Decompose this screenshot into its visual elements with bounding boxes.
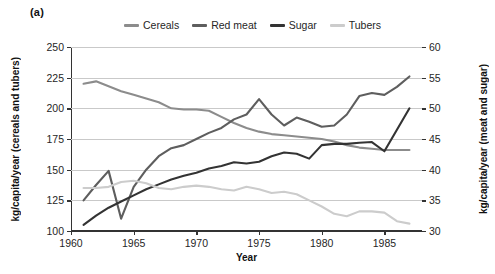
y-axis-right-tick-label: 40 bbox=[429, 164, 441, 176]
y-axis-right-tick bbox=[422, 47, 426, 48]
y-axis-left-tick-label: 150 bbox=[46, 164, 64, 176]
legend-item-tubers[interactable]: Tubers bbox=[330, 20, 381, 31]
y-axis-left-title: kg/capita/year (cereals and tubers) bbox=[10, 47, 21, 231]
y-axis-left-tick-label: 225 bbox=[46, 72, 64, 84]
chart-legend: CerealsRed meatSugarTubers bbox=[124, 20, 381, 31]
y-axis-right-tick-label: 50 bbox=[429, 102, 441, 114]
legend-label: Sugar bbox=[289, 20, 317, 31]
legend-label: Red meat bbox=[211, 20, 257, 31]
y-axis-right-title-text: kg/capita/year (meat and sugar) bbox=[478, 64, 489, 214]
y-axis-left-tick-label: 175 bbox=[46, 133, 64, 145]
legend-label: Cereals bbox=[143, 20, 179, 31]
legend-label: Tubers bbox=[349, 20, 381, 31]
y-axis-right-tick bbox=[422, 78, 426, 79]
series-line-cereals bbox=[84, 81, 410, 150]
x-axis-tick-label: 1985 bbox=[373, 237, 396, 249]
y-axis-right-tick bbox=[422, 108, 426, 109]
y-axis-left-title-text: kg/capita/year (cereals and tubers) bbox=[10, 57, 21, 222]
legend-item-sugar[interactable]: Sugar bbox=[270, 20, 317, 31]
y-axis-right-tick bbox=[422, 170, 426, 171]
x-axis-tick bbox=[71, 231, 72, 235]
y-axis-left-tick-label: 125 bbox=[46, 194, 64, 206]
series-line-sugar bbox=[84, 108, 410, 225]
y-axis-right-tick-label: 45 bbox=[429, 133, 441, 145]
y-axis-right-tick-label: 30 bbox=[429, 225, 441, 237]
x-axis-tick bbox=[259, 231, 260, 235]
x-axis-tick-label: 1970 bbox=[185, 237, 208, 249]
y-axis-right-tick bbox=[422, 231, 426, 232]
x-axis-title: Year bbox=[71, 252, 422, 263]
x-axis-tick bbox=[384, 231, 385, 235]
x-axis-tick bbox=[134, 231, 135, 235]
series-line-tubers bbox=[84, 181, 410, 224]
line-swatch-icon bbox=[124, 24, 139, 27]
chart-figure: (a) CerealsRed meatSugarTubers kg/capita… bbox=[0, 0, 495, 274]
x-axis-tick-label: 1965 bbox=[122, 237, 145, 249]
line-swatch-icon bbox=[330, 24, 345, 27]
legend-item-red-meat[interactable]: Red meat bbox=[192, 20, 257, 31]
y-axis-left-tick-label: 200 bbox=[46, 102, 64, 114]
y-axis-right-tick-label: 55 bbox=[429, 72, 441, 84]
x-axis-tick bbox=[196, 231, 197, 235]
y-axis-right-title: kg/capita/year (meat and sugar) bbox=[478, 47, 489, 231]
series-layer bbox=[71, 47, 422, 231]
y-axis-left-tick-label: 250 bbox=[46, 41, 64, 53]
x-axis-tick-label: 1960 bbox=[59, 237, 82, 249]
y-axis-right-tick-label: 35 bbox=[429, 194, 441, 206]
line-swatch-icon bbox=[270, 24, 285, 27]
plot-area: 1001251501752002252503035404550556019601… bbox=[71, 47, 422, 231]
legend-item-cereals[interactable]: Cereals bbox=[124, 20, 179, 31]
y-axis-left-tick-label: 100 bbox=[46, 225, 64, 237]
y-axis-right-tick bbox=[422, 139, 426, 140]
panel-label: (a) bbox=[30, 6, 44, 18]
line-swatch-icon bbox=[192, 24, 207, 27]
x-axis-tick-label: 1975 bbox=[247, 237, 270, 249]
y-axis-right-tick bbox=[422, 200, 426, 201]
gridline bbox=[71, 231, 422, 232]
y-axis-right-tick-label: 60 bbox=[429, 41, 441, 53]
x-axis-tick bbox=[322, 231, 323, 235]
x-axis-tick-label: 1980 bbox=[310, 237, 333, 249]
